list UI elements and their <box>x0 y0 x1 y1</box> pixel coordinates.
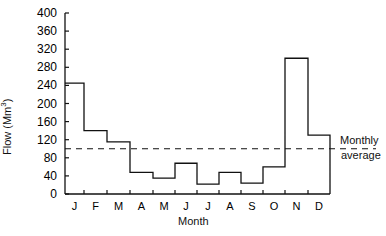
x-tick-label: S <box>248 200 255 212</box>
x-tick-label: O <box>270 200 279 212</box>
y-axis-title: Flow (Mm3) <box>0 99 13 155</box>
x-tick-label: F <box>92 200 99 212</box>
y-tick-label: 160 <box>37 115 57 129</box>
flow-series <box>65 58 330 194</box>
y-tick-label: 360 <box>37 24 57 38</box>
x-tick-label: J <box>183 200 189 212</box>
x-tick-label: J <box>205 200 211 212</box>
y-tick-label: 0 <box>50 187 57 201</box>
x-tick-label: N <box>293 200 301 212</box>
x-tick-label: A <box>138 200 146 212</box>
y-tick-label: 80 <box>44 151 58 165</box>
x-tick-label: M <box>114 200 123 212</box>
x-tick-label: D <box>315 200 323 212</box>
x-tick-label: A <box>226 200 234 212</box>
average-label-line2: average <box>341 149 381 161</box>
y-tick-label: 240 <box>37 78 57 92</box>
y-tick-label: 120 <box>37 133 57 147</box>
x-tick-label: J <box>72 200 78 212</box>
x-axis-title: Month <box>178 215 209 227</box>
y-tick-label: 40 <box>44 169 58 183</box>
average-label-line1: Monthly <box>340 134 379 146</box>
y-tick-label: 400 <box>37 6 57 20</box>
y-tick-label: 320 <box>37 42 57 56</box>
y-tick-label: 280 <box>37 60 57 74</box>
flow-step-chart: 04080120160200240280320360400JFMAMJJASON… <box>0 0 386 236</box>
y-tick-label: 200 <box>37 97 57 111</box>
x-tick-label: M <box>159 200 168 212</box>
